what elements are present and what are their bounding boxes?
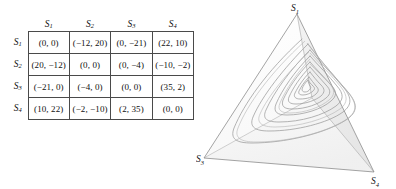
row-header-3: S3 (8, 76, 28, 98)
cell-r2c2: (0, 0) (69, 54, 110, 76)
row-header-4-sub: 4 (19, 107, 22, 114)
cell-r4c1: (10, 22) (28, 98, 69, 120)
column-header-2: S2 (69, 18, 110, 32)
cell-r4c2: (−2, −10) (69, 98, 110, 120)
vertex-label-s1-sub: 1 (296, 8, 299, 15)
vertex-label-s3: S3 (196, 154, 205, 166)
column-header-1: S1 (28, 18, 69, 32)
row-header-1: S1 (8, 32, 28, 54)
column-header-2-sub: 2 (91, 23, 94, 30)
payoff-matrix-figure: S1 S2 S3 S4 S1 (8, 18, 194, 130)
column-header-3-sub: 3 (132, 23, 135, 30)
row-header-2-sub: 2 (19, 63, 22, 70)
table-row: S3 (−21, 0) (−4, 0) (0, 0) (35, 2) (8, 76, 194, 98)
vertex-label-s4-sub: 4 (376, 181, 380, 188)
matrix-corner (8, 18, 28, 32)
cell-r3c4: (35, 2) (152, 76, 193, 98)
vertex-label-s3-sub: 3 (200, 159, 205, 166)
vertex-label-s1: S1 (291, 3, 299, 15)
figure-canvas: S1 S2 S3 S4 S1 (0, 0, 396, 189)
row-header-1-sub: 1 (19, 41, 22, 48)
cell-r1c1: (0, 0) (28, 32, 69, 54)
row-header-3-sub: 3 (19, 85, 22, 92)
table-row: S4 (10, 22) (−2, −10) (2, 35) (0, 0) (8, 98, 194, 120)
cell-r2c1: (20, −12) (28, 54, 69, 76)
column-header-4: S4 (152, 18, 193, 32)
simplex-svg: S1 S3 S4 (196, 0, 396, 189)
table-row: S2 (20, −12) (0, 0) (0, −4) (−10, −2) (8, 54, 194, 76)
cell-r1c3: (0, −21) (111, 32, 152, 54)
table-row: S1 (0, 0) (−12, 20) (0, −21) (22, 10) (8, 32, 194, 54)
row-header-2: S2 (8, 54, 28, 76)
cell-r2c4: (−10, −2) (152, 54, 193, 76)
cell-r3c2: (−4, 0) (69, 76, 110, 98)
cell-r3c1: (−21, 0) (28, 76, 69, 98)
column-header-1-sub: 1 (49, 23, 52, 30)
matrix-header-row: S1 S2 S3 S4 (8, 18, 194, 32)
cell-r4c4: (0, 0) (152, 98, 193, 120)
cell-r4c3: (2, 35) (111, 98, 152, 120)
cell-r3c3: (0, 0) (111, 76, 152, 98)
vertex-label-s4: S4 (371, 176, 380, 188)
simplex-figure: S1 S3 S4 (196, 0, 396, 189)
cell-r2c3: (0, −4) (111, 54, 152, 76)
row-header-4: S4 (8, 98, 28, 120)
column-header-3: S3 (111, 18, 152, 32)
cell-r1c4: (22, 10) (152, 32, 193, 54)
column-header-4-sub: 4 (174, 23, 177, 30)
cell-r1c2: (−12, 20) (69, 32, 110, 54)
payoff-matrix-table: S1 S2 S3 S4 S1 (8, 18, 194, 120)
matrix-body: S1 (0, 0) (−12, 20) (0, −21) (22, 10) S2… (8, 32, 194, 120)
